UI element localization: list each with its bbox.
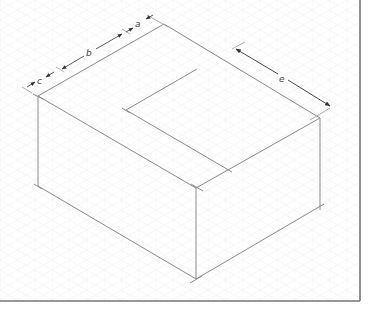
dimension-label-b: b	[86, 48, 92, 58]
isometric-grid	[0, 0, 360, 301]
dimension-label-a: a	[135, 19, 141, 29]
dimension-label-e: e	[279, 74, 285, 84]
dimension-label-c: c	[37, 76, 42, 86]
isometric-drawing-frame: c b a e	[0, 0, 373, 309]
